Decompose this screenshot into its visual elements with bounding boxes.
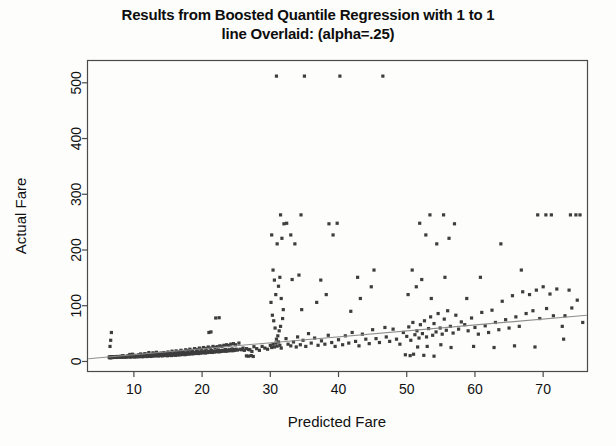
data-point	[470, 316, 473, 319]
data-point	[357, 344, 360, 347]
data-point	[443, 318, 446, 321]
data-point	[449, 346, 452, 349]
data-point	[454, 314, 457, 317]
data-point	[250, 350, 253, 353]
data-point	[405, 335, 408, 338]
data-point	[289, 233, 292, 236]
data-point	[420, 278, 423, 281]
data-point	[411, 268, 414, 271]
data-point	[479, 276, 482, 279]
data-point	[542, 285, 545, 288]
data-point	[416, 345, 419, 348]
data-point	[432, 355, 435, 358]
data-point	[255, 347, 258, 350]
data-point	[412, 353, 415, 356]
data-point	[504, 318, 507, 321]
data-point	[467, 329, 470, 332]
data-point	[280, 297, 283, 300]
data-point	[304, 345, 307, 348]
data-points-group	[108, 75, 585, 360]
data-point	[520, 268, 523, 271]
data-point	[388, 340, 391, 343]
data-point	[272, 319, 275, 322]
data-point	[443, 276, 446, 279]
data-point	[269, 301, 272, 304]
x-tick-label: 20	[194, 381, 210, 397]
data-point	[574, 213, 577, 216]
data-point	[319, 278, 322, 281]
data-point	[275, 338, 278, 341]
data-point	[323, 343, 326, 346]
data-point	[276, 242, 279, 245]
data-point	[422, 354, 425, 357]
data-point	[409, 339, 412, 342]
data-point	[487, 331, 490, 334]
x-tick-label: 50	[399, 381, 415, 397]
data-point	[480, 311, 483, 314]
data-point	[282, 222, 285, 225]
data-point	[310, 341, 313, 344]
data-point	[285, 222, 288, 225]
data-point	[567, 289, 570, 292]
data-point	[275, 75, 278, 78]
data-point	[442, 213, 445, 216]
one-to-one-overlay-line	[88, 315, 587, 358]
data-point	[555, 287, 558, 290]
y-tick-label: 300	[69, 182, 85, 206]
data-point	[398, 343, 401, 346]
data-point	[109, 339, 112, 342]
x-tick-label: 30	[263, 381, 279, 397]
data-point	[501, 300, 504, 303]
data-point	[354, 340, 357, 343]
data-point	[395, 338, 398, 341]
data-point	[299, 343, 302, 346]
data-point	[325, 293, 328, 296]
y-axis-ticks: 0100200300400500	[69, 71, 88, 365]
data-point	[511, 294, 514, 297]
data-point	[293, 242, 296, 245]
y-tick-label: 0	[69, 357, 85, 365]
data-point	[349, 310, 352, 313]
data-point	[417, 336, 420, 339]
y-axis-title: Actual Fare	[12, 178, 29, 255]
data-point	[279, 213, 282, 216]
x-tick-label: 40	[331, 381, 347, 397]
data-point	[252, 345, 255, 348]
data-point	[407, 293, 410, 296]
data-point	[452, 331, 455, 334]
data-point	[341, 343, 344, 346]
data-point	[528, 293, 531, 296]
data-point	[327, 222, 330, 225]
data-point	[514, 315, 517, 318]
data-point	[273, 345, 276, 348]
data-point	[428, 213, 431, 216]
data-point	[411, 321, 414, 324]
data-point	[426, 345, 429, 348]
data-point	[351, 331, 354, 334]
data-point	[356, 276, 359, 279]
data-point	[327, 334, 330, 337]
data-point	[331, 233, 334, 236]
data-point	[576, 299, 579, 302]
data-point	[299, 213, 302, 216]
data-point	[499, 242, 502, 245]
data-point	[544, 213, 547, 216]
data-point	[447, 237, 450, 240]
data-point	[291, 278, 294, 281]
data-point	[441, 333, 444, 336]
data-point	[271, 314, 274, 317]
data-point	[218, 316, 221, 319]
data-point	[492, 346, 495, 349]
data-point	[282, 308, 285, 311]
data-point	[263, 346, 266, 349]
data-point	[359, 297, 362, 300]
data-point	[445, 329, 448, 332]
data-point	[278, 329, 281, 332]
data-point	[277, 285, 280, 288]
data-point	[347, 341, 350, 344]
data-point	[278, 344, 281, 347]
data-point	[236, 348, 239, 351]
data-point	[536, 213, 539, 216]
data-point	[247, 355, 250, 358]
x-axis-ticks: 10203040506070	[126, 372, 551, 397]
